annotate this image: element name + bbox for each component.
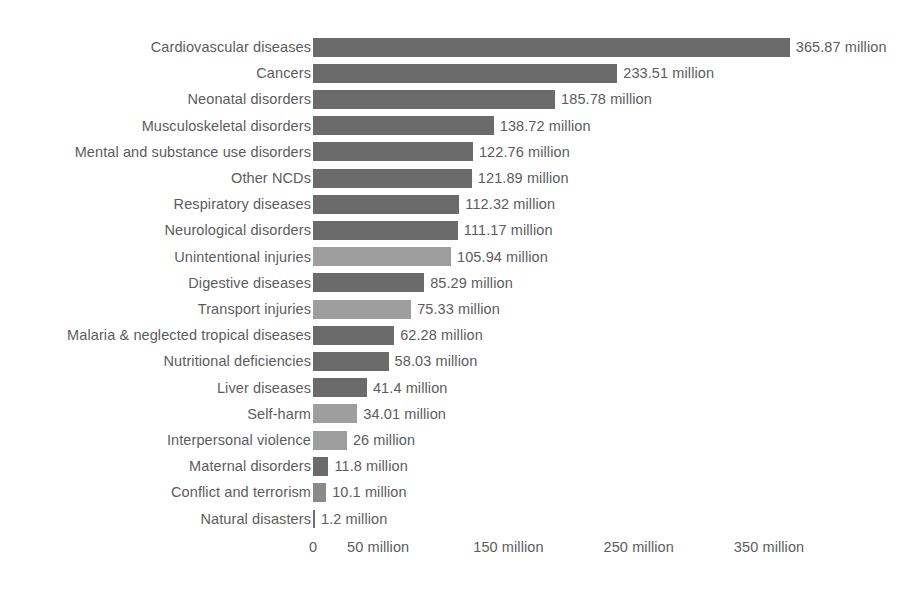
- category-label: Other NCDs: [231, 165, 311, 191]
- category-label: Maternal disorders: [189, 453, 311, 479]
- bar: [313, 195, 459, 214]
- bar-row: Nutritional deficiencies58.03 million: [0, 348, 924, 374]
- x-axis-tick-label: 150 million: [473, 535, 543, 559]
- bar: [313, 221, 458, 240]
- category-label: Conflict and terrorism: [171, 479, 311, 505]
- bar-row: Neurological disorders111.17 million: [0, 217, 924, 243]
- value-label: 58.03 million: [395, 348, 478, 374]
- value-label: 1.2 million: [321, 506, 387, 532]
- x-axis-tick-label: 0: [309, 535, 317, 559]
- bar-row: Interpersonal violence26 million: [0, 427, 924, 453]
- category-label: Interpersonal violence: [167, 427, 311, 453]
- category-label: Digestive diseases: [188, 270, 311, 296]
- value-label: 138.72 million: [500, 113, 591, 139]
- bar-row: Maternal disorders11.8 million: [0, 453, 924, 479]
- bar-row: Mental and substance use disorders122.76…: [0, 139, 924, 165]
- bar-row: Unintentional injuries105.94 million: [0, 244, 924, 270]
- bar: [313, 352, 389, 371]
- plot-area: Cardiovascular diseases365.87 millionCan…: [0, 0, 924, 589]
- bar-container: [313, 453, 328, 479]
- bar-container: [313, 479, 326, 505]
- value-label: 11.8 million: [334, 453, 407, 479]
- bar-container: [313, 506, 315, 532]
- value-label: 26 million: [353, 427, 415, 453]
- value-label: 365.87 million: [796, 34, 887, 60]
- bar-container: [313, 191, 459, 217]
- value-label: 185.78 million: [561, 86, 652, 112]
- category-label: Liver diseases: [217, 375, 311, 401]
- x-axis-tick-label: 50 million: [347, 535, 409, 559]
- value-label: 34.01 million: [363, 401, 446, 427]
- bar-container: [313, 113, 494, 139]
- value-label: 233.51 million: [623, 60, 714, 86]
- bar: [313, 273, 424, 292]
- value-label: 75.33 million: [417, 296, 500, 322]
- bar: [313, 457, 328, 476]
- bar-chart: Cardiovascular diseases365.87 millionCan…: [0, 0, 924, 589]
- x-axis-tick-label: 350 million: [734, 535, 804, 559]
- bar-row: Self-harm34.01 million: [0, 401, 924, 427]
- bar: [313, 38, 790, 57]
- bar-container: [313, 375, 367, 401]
- category-label: Natural disasters: [201, 506, 312, 532]
- bar: [313, 142, 473, 161]
- bar-container: [313, 401, 357, 427]
- category-label: Cardiovascular diseases: [151, 34, 311, 60]
- bar-row: Cancers233.51 million: [0, 60, 924, 86]
- bar: [313, 116, 494, 135]
- bar: [313, 326, 394, 345]
- value-label: 62.28 million: [400, 322, 483, 348]
- bar-container: [313, 270, 424, 296]
- bar-row: Natural disasters1.2 million: [0, 506, 924, 532]
- category-label: Self-harm: [247, 401, 311, 427]
- x-axis: 050 million150 million250 million350 mil…: [0, 535, 924, 565]
- bar-container: [313, 139, 473, 165]
- category-label: Malaria & neglected tropical diseases: [67, 322, 311, 348]
- bar-row: Transport injuries75.33 million: [0, 296, 924, 322]
- bar-container: [313, 348, 389, 374]
- category-label: Mental and substance use disorders: [75, 139, 311, 165]
- x-axis-tick-label: 250 million: [604, 535, 674, 559]
- bar: [313, 169, 472, 188]
- bar: [313, 404, 357, 423]
- bar-container: [313, 244, 451, 270]
- bar-container: [313, 60, 617, 86]
- bar-row: Cardiovascular diseases365.87 million: [0, 34, 924, 60]
- bar: [313, 247, 451, 266]
- category-label: Unintentional injuries: [174, 244, 311, 270]
- bar-row: Conflict and terrorism10.1 million: [0, 479, 924, 505]
- category-label: Transport injuries: [198, 296, 311, 322]
- bar: [313, 90, 555, 109]
- bar-row: Other NCDs121.89 million: [0, 165, 924, 191]
- bar-row: Neonatal disorders185.78 million: [0, 86, 924, 112]
- value-label: 121.89 million: [478, 165, 569, 191]
- category-label: Neonatal disorders: [187, 86, 311, 112]
- value-label: 112.32 million: [465, 191, 555, 217]
- category-label: Cancers: [256, 60, 311, 86]
- bar: [313, 431, 347, 450]
- value-label: 122.76 million: [479, 139, 570, 165]
- bar-container: [313, 34, 790, 60]
- bar-row: Liver diseases41.4 million: [0, 375, 924, 401]
- bar: [313, 378, 367, 397]
- bar-container: [313, 322, 394, 348]
- bar-row: Digestive diseases85.29 million: [0, 270, 924, 296]
- value-label: 105.94 million: [457, 244, 548, 270]
- bar-row: Respiratory diseases112.32 million: [0, 191, 924, 217]
- bar-container: [313, 427, 347, 453]
- category-label: Neurological disorders: [165, 217, 311, 243]
- value-label: 85.29 million: [430, 270, 513, 296]
- bar: [313, 64, 617, 83]
- value-label: 111.17 million: [464, 217, 553, 243]
- bar-container: [313, 86, 555, 112]
- bar-row: Malaria & neglected tropical diseases62.…: [0, 322, 924, 348]
- category-label: Respiratory diseases: [174, 191, 311, 217]
- bar: [313, 483, 326, 502]
- bar-container: [313, 217, 458, 243]
- value-label: 10.1 million: [332, 479, 407, 505]
- bar-row: Musculoskeletal disorders138.72 million: [0, 113, 924, 139]
- bar: [313, 300, 411, 319]
- category-label: Musculoskeletal disorders: [142, 113, 311, 139]
- bar-container: [313, 296, 411, 322]
- value-label: 41.4 million: [373, 375, 448, 401]
